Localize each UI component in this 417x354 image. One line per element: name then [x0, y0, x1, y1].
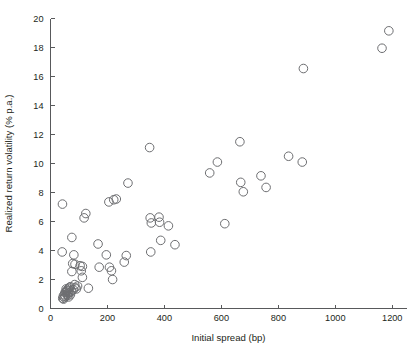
data-point [58, 248, 67, 257]
data-point [70, 251, 79, 260]
data-points [58, 27, 393, 304]
y-axis-title: Realized return volatility (% p.a.) [3, 94, 14, 232]
data-point [164, 222, 173, 231]
y-tick-label: 6 [38, 217, 43, 227]
data-point [68, 233, 77, 242]
y-tick-label: 16 [33, 72, 43, 82]
y-tick-label: 0 [38, 304, 43, 314]
axes [51, 19, 407, 309]
data-point [205, 169, 214, 178]
data-point [257, 172, 266, 181]
data-point [84, 284, 93, 293]
data-point [213, 158, 222, 167]
y-tick-label: 8 [38, 188, 43, 198]
data-point [124, 179, 133, 188]
y-tick-label: 4 [38, 246, 43, 256]
data-point [155, 218, 164, 227]
y-tick-labels: 02468101214161820 [33, 14, 43, 314]
data-point [378, 44, 387, 53]
plot-canvas: 020040060080010001200 02468101214161820 … [0, 0, 417, 354]
scatter-plot-figure: 020040060080010001200 02468101214161820 … [0, 0, 417, 354]
data-point [220, 219, 229, 228]
data-point [385, 27, 394, 36]
data-point [146, 248, 155, 257]
y-tick-label: 10 [33, 159, 43, 169]
data-point [262, 183, 271, 192]
x-tick-label: 1000 [325, 313, 345, 323]
y-tick-label: 12 [33, 130, 43, 140]
x-tick-label: 0 [48, 313, 53, 323]
data-point [239, 187, 248, 196]
x-tick-label: 800 [271, 313, 286, 323]
y-tick-label: 14 [33, 101, 43, 111]
data-point [236, 137, 245, 146]
y-tick-label: 18 [33, 43, 43, 53]
data-point [102, 251, 111, 260]
data-point [95, 263, 104, 272]
data-point [58, 200, 67, 209]
data-point [156, 236, 165, 245]
data-point [298, 158, 307, 167]
y-tick-label: 2 [38, 275, 43, 285]
data-point [94, 240, 103, 249]
x-tick-labels: 020040060080010001200 [48, 313, 403, 323]
x-axis-title: Initial spread (bp) [191, 332, 265, 343]
x-tick-label: 600 [214, 313, 229, 323]
x-tick-label: 200 [100, 313, 115, 323]
y-tick-label: 20 [33, 14, 43, 24]
x-tick-label: 400 [157, 313, 172, 323]
x-tick-label: 1200 [382, 313, 402, 323]
data-point [284, 152, 293, 161]
data-point [171, 240, 180, 249]
data-point [147, 219, 156, 228]
data-point [108, 275, 117, 284]
data-point [68, 267, 77, 276]
data-point [236, 178, 245, 187]
data-point [78, 273, 87, 282]
data-point [145, 143, 154, 152]
data-point [299, 64, 308, 73]
